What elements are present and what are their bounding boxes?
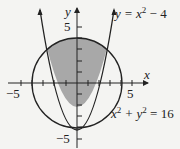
y-axis-label: y xyxy=(63,4,71,19)
circle-equation: x2 + y2 = 16 xyxy=(110,105,174,121)
tick-label-5: 5 xyxy=(127,86,134,101)
x-axis-label: x xyxy=(143,67,150,82)
tick-label-neg5: −5 xyxy=(6,86,20,101)
parabola-equation: y = x2 − 4 xyxy=(113,5,167,21)
ytick-label-neg5: −5 xyxy=(56,131,70,146)
ytick-label-5: 5 xyxy=(64,19,71,34)
graph: x y −5 5 5 −5 y = x2 − 4 x2 + y2 = 16 xyxy=(0,0,180,149)
